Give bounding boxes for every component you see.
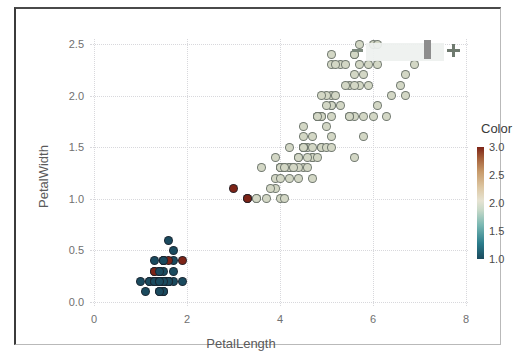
data-point[interactable] xyxy=(331,91,340,100)
y-tick-label: 2.0 xyxy=(44,91,84,102)
data-point[interactable] xyxy=(359,70,368,79)
gridline-vertical xyxy=(280,39,281,306)
data-point[interactable] xyxy=(341,81,350,90)
data-point[interactable] xyxy=(350,81,359,90)
data-point[interactable] xyxy=(164,236,173,245)
color-legend-gradient-bar xyxy=(477,147,484,259)
color-legend-tick-label: 2.5 xyxy=(489,170,504,181)
y-tick-label: 0.0 xyxy=(44,297,84,308)
data-point[interactable] xyxy=(359,132,368,141)
data-point[interactable] xyxy=(382,112,391,121)
y-tick-label: 2.5 xyxy=(44,39,84,50)
data-point[interactable] xyxy=(341,60,350,69)
color-legend-title: Color xyxy=(481,121,512,136)
data-point[interactable] xyxy=(303,163,312,172)
x-tick-label: 2 xyxy=(167,314,207,325)
data-point[interactable] xyxy=(336,101,345,110)
x-tick-label: 4 xyxy=(260,314,300,325)
data-point[interactable] xyxy=(285,174,294,183)
data-point[interactable] xyxy=(327,50,336,59)
color-legend-tick-label: 1.0 xyxy=(489,254,504,265)
y-axis-title: PetalWidth xyxy=(36,117,51,237)
data-point[interactable] xyxy=(313,112,322,121)
chart-window: 0.00.51.01.52.02.5 02468 PetalLength Pet… xyxy=(0,0,518,360)
data-point[interactable] xyxy=(350,153,359,162)
x-tick-label: 6 xyxy=(353,314,393,325)
chart-frame: 0.00.51.01.52.02.5 02468 PetalLength Pet… xyxy=(14,7,501,345)
data-point[interactable] xyxy=(178,256,187,265)
data-point[interactable] xyxy=(262,194,271,203)
data-point[interactable] xyxy=(364,81,373,90)
color-legend: Color 3.02.52.01.51.0 xyxy=(471,121,518,271)
gridline-vertical xyxy=(466,39,467,306)
y-tick-label: 0.5 xyxy=(44,245,84,256)
data-point[interactable] xyxy=(276,174,285,183)
data-point[interactable] xyxy=(294,174,303,183)
data-point[interactable] xyxy=(327,112,336,121)
data-point[interactable] xyxy=(299,132,308,141)
zoom-out-icon[interactable] xyxy=(352,49,363,52)
data-point[interactable] xyxy=(169,267,178,276)
data-point[interactable] xyxy=(271,153,280,162)
data-point[interactable] xyxy=(136,277,145,286)
gridline-horizontal xyxy=(90,147,468,148)
gridline-vertical xyxy=(187,39,188,306)
data-point[interactable] xyxy=(401,91,410,100)
color-legend-tick-label: 2.0 xyxy=(489,198,504,209)
zoom-in-icon[interactable] xyxy=(447,44,460,57)
gridline-horizontal xyxy=(90,96,468,97)
data-point[interactable] xyxy=(350,70,359,79)
data-point[interactable] xyxy=(155,277,164,286)
data-point[interactable] xyxy=(150,256,159,265)
data-point[interactable] xyxy=(299,122,308,131)
zoom-slider-handle[interactable] xyxy=(424,40,431,59)
gridline-vertical xyxy=(373,39,374,306)
x-axis-title: PetalLength xyxy=(16,336,466,351)
data-point[interactable] xyxy=(313,153,322,162)
data-point[interactable] xyxy=(178,277,187,286)
data-point[interactable] xyxy=(322,122,331,131)
gridline-vertical xyxy=(94,39,95,306)
data-point[interactable] xyxy=(396,81,405,90)
data-point[interactable] xyxy=(243,194,252,203)
data-point[interactable] xyxy=(229,184,238,193)
data-point[interactable] xyxy=(257,163,266,172)
data-point[interactable] xyxy=(308,174,317,183)
data-point[interactable] xyxy=(308,132,317,141)
x-tick-label: 8 xyxy=(446,314,486,325)
data-point[interactable] xyxy=(294,153,303,162)
data-point[interactable] xyxy=(308,143,317,152)
zoom-slider-track[interactable] xyxy=(366,43,444,61)
data-point[interactable] xyxy=(285,143,294,152)
x-tick-label: 0 xyxy=(74,314,114,325)
data-point[interactable] xyxy=(327,143,336,152)
data-point[interactable] xyxy=(373,101,382,110)
gridline-horizontal xyxy=(90,250,468,251)
data-point[interactable] xyxy=(327,132,336,141)
scatter-plot[interactable]: 0.00.51.01.52.02.5 02468 PetalLength Pet… xyxy=(16,9,518,360)
data-point[interactable] xyxy=(280,194,289,203)
data-point[interactable] xyxy=(252,194,261,203)
color-legend-tick-label: 1.5 xyxy=(489,226,504,237)
data-point[interactable] xyxy=(369,112,378,121)
data-point[interactable] xyxy=(359,112,368,121)
color-legend-tick-label: 3.0 xyxy=(489,142,504,153)
data-point[interactable] xyxy=(169,246,178,255)
data-point[interactable] xyxy=(155,267,164,276)
data-point[interactable] xyxy=(155,287,164,296)
data-point[interactable] xyxy=(141,287,150,296)
data-point[interactable] xyxy=(299,143,308,152)
data-point[interactable] xyxy=(345,112,354,121)
gridline-horizontal xyxy=(90,302,468,303)
data-point[interactable] xyxy=(401,70,410,79)
zoom-slider-widget[interactable] xyxy=(352,42,458,62)
data-point[interactable] xyxy=(387,91,396,100)
